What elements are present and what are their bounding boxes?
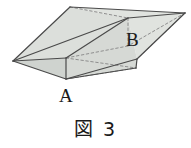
figure-caption: 図 3: [0, 119, 191, 140]
vertex-label-b: B: [126, 30, 139, 49]
vertex-label-a: A: [59, 86, 73, 105]
figure-container: A B 図 3: [0, 0, 191, 148]
